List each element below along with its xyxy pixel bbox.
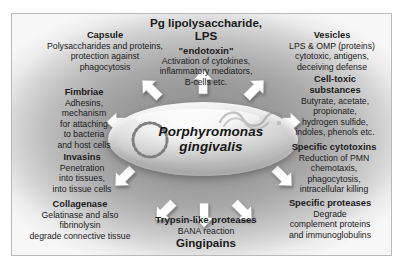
block-specific-cytotoxins: Specific cytotoxins Reduction of PMN che… bbox=[270, 142, 392, 195]
invasins-line1: Penetration bbox=[28, 163, 136, 173]
invasins-heading: Invasins bbox=[28, 152, 136, 163]
gingipains-body: BANA reaction bbox=[130, 226, 282, 236]
invasins-line2: into tissues, bbox=[28, 173, 136, 183]
fimbriae-line1: Adhesins, bbox=[34, 98, 134, 108]
gingipains-title: Trypsin-like proteases bbox=[130, 214, 282, 226]
collagenase-heading: Collagenase bbox=[14, 199, 146, 210]
vesicles-line1: LPS & OMP (proteins) bbox=[270, 41, 392, 51]
lps-body-line3: B-cells etc. bbox=[122, 77, 290, 87]
collagenase-line2: fibrinolysin bbox=[14, 220, 146, 230]
vesicles-line3: deceiving defense bbox=[270, 62, 392, 72]
cell-toxic-heading: Cell-toxic bbox=[276, 74, 392, 85]
capsule-line2: protection against bbox=[20, 51, 190, 61]
proteases-line3: and immunoglobulins bbox=[264, 230, 392, 240]
fimbriae-line2: mechanism bbox=[34, 108, 134, 118]
block-fimbriae: Fimbriae Adhesins, mechanism for attachi… bbox=[34, 87, 134, 150]
invasins-line3: into tissue cells bbox=[28, 184, 136, 194]
fimbriae-line5: and host cells bbox=[34, 140, 134, 150]
lps-title-line1: Pg lipolysaccharide, bbox=[122, 17, 290, 30]
block-specific-proteases: Specific proteases Degrade complement pr… bbox=[264, 198, 392, 240]
organism-name-line1: Porphyromonas bbox=[159, 124, 264, 139]
capsule-line3: phagocytosis bbox=[20, 62, 190, 72]
proteases-line1: Degrade bbox=[264, 209, 392, 219]
cell-toxic-line3: hydrogen sulfide, bbox=[276, 117, 392, 127]
cell-toxic-line1: Butyrate, acetate, bbox=[276, 96, 392, 106]
fimbriae-heading: Fimbriae bbox=[34, 87, 134, 98]
cytotoxins-line2: chemotaxis, bbox=[270, 163, 392, 173]
cytotoxins-heading: Specific cytotoxins bbox=[270, 142, 392, 153]
collagenase-line3: degrade connective tissue bbox=[14, 231, 146, 241]
organism-name-line2: gingivalis bbox=[179, 139, 242, 154]
fimbriae-line4: to bacteria bbox=[34, 129, 134, 139]
block-invasins: Invasins Penetration into tissues, into … bbox=[28, 152, 136, 194]
block-vesicles: Vesicles LPS & OMP (proteins) cytotoxic,… bbox=[270, 30, 392, 72]
block-capsule: Capsule Polysaccharides and proteins, pr… bbox=[20, 30, 190, 72]
gingipains-footer: Gingipains bbox=[130, 237, 282, 250]
cytotoxins-line1: Reduction of PMN bbox=[270, 153, 392, 163]
block-gingipains: Trypsin-like proteases BANA reaction Gin… bbox=[130, 214, 282, 250]
vesicles-heading: Vesicles bbox=[270, 30, 392, 41]
block-collagenase: Collagenase Gelatinase and also fibrinol… bbox=[14, 199, 146, 241]
cell-toxic-heading2: substances bbox=[276, 85, 392, 96]
capsule-line1: Polysaccharides and proteins, bbox=[20, 41, 190, 51]
vesicles-line2: cytotoxic, antigens, bbox=[270, 51, 392, 61]
cell-toxic-line4: indoles, phenols etc. bbox=[276, 127, 392, 137]
cell-toxic-line2: propionate, bbox=[276, 106, 392, 116]
cytotoxins-line3: phagocytosis, bbox=[270, 174, 392, 184]
block-cell-toxic: Cell-toxic substances Butyrate, acetate,… bbox=[276, 74, 392, 138]
capsule-heading: Capsule bbox=[20, 30, 190, 41]
cytotoxins-line4: intracellular killing bbox=[270, 184, 392, 194]
fimbriae-line3: for attaching bbox=[34, 119, 134, 129]
proteases-heading: Specific proteases bbox=[264, 198, 392, 209]
collagenase-line1: Gelatinase and also bbox=[14, 210, 146, 220]
proteases-line2: complement proteins bbox=[264, 219, 392, 229]
pathogenicity-diagram: Porphyromonas gingivalis Pg lipolysaccha… bbox=[11, 13, 392, 256]
